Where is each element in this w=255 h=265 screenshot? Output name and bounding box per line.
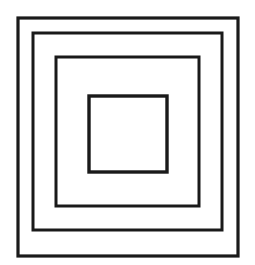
nested-squares-svg bbox=[0, 0, 255, 265]
canvas-background bbox=[0, 0, 255, 265]
nested-squares-figure bbox=[0, 0, 255, 265]
